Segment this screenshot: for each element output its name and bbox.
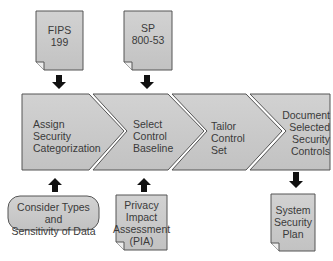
up-arrow-icon xyxy=(48,178,62,192)
consider-data-label: Consider Types and Sensitivity of Data xyxy=(8,201,99,237)
down-arrow-icon xyxy=(289,172,303,188)
step-tailor-label: Tailor Control Set xyxy=(211,120,271,156)
down-arrow-icon xyxy=(52,75,66,89)
step-document-label: Document Selected Security Controls xyxy=(278,109,330,157)
up-arrow-icon xyxy=(137,178,151,192)
fips-199-label: FIPS 199 xyxy=(36,24,83,48)
sp-800-53-label: SP 800-53 xyxy=(124,22,172,46)
step-assign-label: Assign Security Categorization xyxy=(33,118,113,154)
pia-label: Privacy Impact Assessment (PIA) xyxy=(113,199,170,247)
step-select-label: Select Control Baseline xyxy=(133,118,193,154)
down-arrow-icon xyxy=(140,75,154,89)
system-security-plan-label: System Security Plan xyxy=(271,204,315,240)
